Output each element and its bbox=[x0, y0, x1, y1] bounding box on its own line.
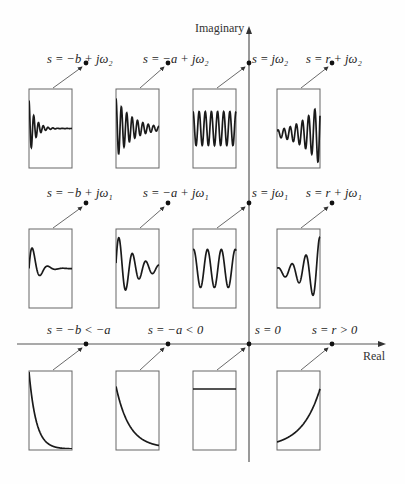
pole-dot-r2-c2 bbox=[247, 342, 252, 347]
growing-low-freq-curve bbox=[277, 237, 320, 295]
pole-label-r1-c2: s = jω₁ bbox=[252, 186, 288, 201]
fast-decaying-high-freq-curve bbox=[29, 101, 72, 148]
slow-decaying-high-freq-curve bbox=[116, 99, 159, 154]
response-box-r2-c3 bbox=[277, 371, 320, 450]
response-box-r2-c2 bbox=[193, 371, 236, 450]
pole-label-r0-c2: s = jω₂ bbox=[252, 52, 288, 67]
pole-dot-r2-c0 bbox=[84, 342, 89, 347]
pole-label-r1-c3: s = r + jω₁ bbox=[306, 186, 362, 201]
imaginary-axis-label: Imaginary bbox=[195, 21, 244, 36]
s-plane-diagram: Imaginary Real s = −b + jω₂ s = −a + jω₂… bbox=[0, 0, 405, 484]
real-axis-arrow-icon bbox=[378, 341, 386, 347]
pole-label-r2-c2: s = 0 bbox=[255, 323, 281, 338]
response-box-r1-c2 bbox=[193, 229, 236, 308]
sustained-low-freq-curve bbox=[193, 250, 236, 288]
diagram-canvas bbox=[0, 0, 405, 484]
pointer-arrow-r1-c3 bbox=[301, 207, 328, 228]
pointer-arrow-r0-c2 bbox=[217, 67, 245, 88]
exponential-growth-curve bbox=[277, 389, 320, 442]
response-box-r1-c3 bbox=[277, 229, 320, 308]
slow-exponential-decay-curve bbox=[116, 386, 159, 445]
pole-label-r0-c0: s = −b + jω₂ bbox=[47, 52, 113, 67]
pole-dot-r1-c0 bbox=[84, 201, 89, 206]
sustained-high-freq-curve bbox=[193, 112, 236, 146]
pole-label-r1-c0: s = −b + jω₁ bbox=[47, 186, 113, 201]
pointer-arrow-r1-c1 bbox=[140, 207, 164, 228]
pole-dot-r1-c2 bbox=[247, 201, 252, 206]
pole-dot-r0-c2 bbox=[247, 61, 252, 66]
pole-dot-r1-c1 bbox=[166, 201, 171, 206]
growing-high-freq-curve bbox=[277, 109, 320, 161]
response-box-r2-c0 bbox=[29, 371, 72, 450]
pole-dot-r2-c3 bbox=[330, 342, 335, 347]
pole-label-r2-c1: s = −a < 0 bbox=[148, 323, 203, 338]
pointer-arrow-r0-c3 bbox=[301, 67, 328, 88]
pointer-arrow-r0-c0 bbox=[53, 67, 82, 88]
pointer-arrow-r2-c0 bbox=[53, 348, 82, 370]
pole-label-r1-c1: s = −a + jω₁ bbox=[143, 186, 209, 201]
pole-dot-r2-c1 bbox=[166, 342, 171, 347]
real-axis-label: Real bbox=[363, 349, 385, 364]
pointer-arrow-r2-c1 bbox=[140, 348, 164, 370]
fast-decaying-low-freq-curve bbox=[29, 248, 72, 275]
pole-label-r2-c0: s = −b < −a bbox=[47, 323, 111, 338]
pointer-arrow-r1-c0 bbox=[53, 207, 82, 228]
imaginary-axis-arrow-icon bbox=[246, 26, 252, 34]
pointer-arrow-r0-c1 bbox=[140, 67, 164, 88]
pointer-arrow-r1-c2 bbox=[217, 207, 245, 228]
fast-exponential-decay-curve bbox=[29, 372, 72, 449]
response-box-r0-c2 bbox=[193, 89, 236, 168]
pointer-arrow-r2-c2 bbox=[217, 348, 245, 370]
pointer-arrow-r2-c3 bbox=[301, 348, 328, 370]
pole-label-r0-c3: s = r + jω₂ bbox=[306, 52, 362, 67]
pole-dot-r1-c3 bbox=[330, 201, 335, 206]
pole-label-r2-c3: s = r > 0 bbox=[312, 323, 357, 338]
slow-decaying-low-freq-curve bbox=[116, 238, 159, 290]
pole-label-r0-c1: s = −a + jω₂ bbox=[143, 52, 209, 67]
